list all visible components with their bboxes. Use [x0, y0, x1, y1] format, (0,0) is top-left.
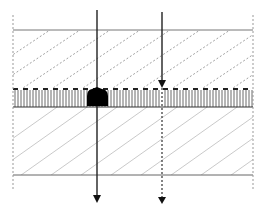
middle-layer-stripes — [15, 90, 252, 107]
arrowhead-down-icon — [158, 197, 166, 204]
arrowhead-down-icon — [93, 195, 101, 203]
lower-layer-hatch — [0, 105, 266, 190]
layered-diagram — [0, 0, 266, 212]
arrowhead-down-icon — [158, 80, 166, 88]
upper-layer-hatch — [0, 30, 266, 110]
